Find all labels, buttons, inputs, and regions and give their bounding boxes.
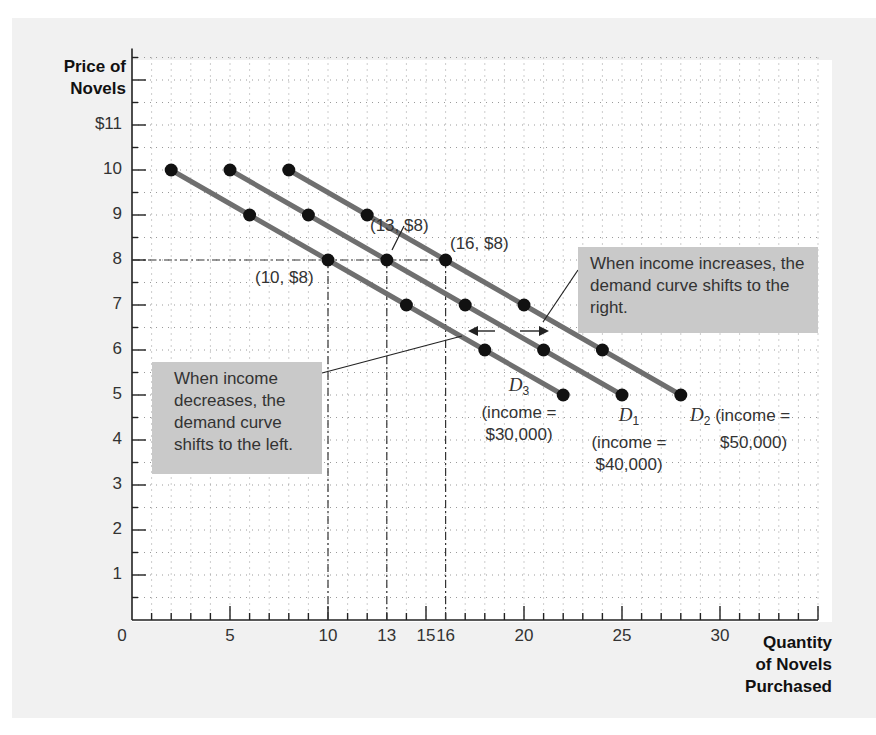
y-axis-title-line1: Price of	[40, 56, 126, 78]
point-label-16-8: (16, $8)	[450, 234, 509, 254]
y-tick-label: 1	[60, 564, 122, 584]
d2-subscript: 2	[704, 414, 711, 428]
y-tick-label: 4	[60, 429, 122, 449]
d3-subscript: 3	[523, 384, 530, 398]
x-axis-title: Quantity of Novels Purchased	[720, 632, 832, 698]
y-tick-label: 8	[60, 249, 122, 269]
x-axis-title-line2: of Novels	[720, 654, 832, 676]
d1-subscript: 1	[633, 414, 640, 428]
grid-lines	[132, 58, 818, 621]
arrow-left-icon	[468, 326, 478, 336]
d3-income-line2: $30,000)	[474, 424, 564, 446]
x-tick-label: 10	[308, 626, 348, 646]
d2-income-line1: (income =	[715, 406, 790, 425]
y-tick-label: 7	[60, 294, 122, 314]
data-point	[282, 164, 295, 177]
curve-label-d1: D1 (income = $40,000)	[584, 404, 674, 476]
y-tick-label: 3	[60, 474, 122, 494]
x-tick-label: 13	[367, 626, 407, 646]
data-point	[400, 299, 413, 312]
data-point	[439, 254, 452, 267]
point-label-10-8: (10, $8)	[255, 268, 314, 288]
d3-name: D	[509, 374, 523, 395]
y-tick-label: 6	[60, 339, 122, 359]
data-point	[459, 299, 472, 312]
x-axis-title-line1: Quantity	[720, 632, 832, 654]
x-tick-label: 16	[426, 626, 466, 646]
curve-label-d3: D3 (income = $30,000)	[474, 374, 564, 446]
d1-income-line2: $40,000)	[584, 454, 674, 476]
data-point	[224, 164, 237, 177]
y-tick-label: 9	[60, 204, 122, 224]
data-point	[165, 164, 178, 177]
data-point	[380, 254, 393, 267]
data-point	[616, 389, 629, 402]
x-tick-label: 20	[504, 626, 544, 646]
data-point	[322, 254, 335, 267]
data-point	[302, 209, 315, 222]
data-point	[478, 344, 491, 357]
d2-income-line2: $50,000)	[690, 432, 820, 454]
chart-canvas	[0, 0, 876, 735]
point-label-13-8: (13, $8)	[370, 216, 429, 236]
leader-decrease-note	[322, 336, 462, 373]
data-point	[243, 209, 256, 222]
y-tick-label: 2	[60, 519, 122, 539]
d1-name: D	[619, 404, 633, 425]
x-tick-label: 0	[102, 626, 142, 646]
y-tick-label: $11	[60, 114, 122, 134]
d2-name: D	[690, 404, 704, 425]
x-tick-label: 25	[602, 626, 642, 646]
data-point	[518, 299, 531, 312]
note-income-decrease: When income decreases, the demand curve …	[152, 362, 322, 474]
y-tick-label: 5	[60, 384, 122, 404]
x-axis-title-line3: Purchased	[720, 676, 832, 698]
data-point	[596, 344, 609, 357]
curve-label-d2: D2 (income = $50,000)	[690, 404, 820, 454]
x-tick-label: 5	[210, 626, 250, 646]
note-income-increase: When income increases, the demand curve …	[578, 247, 818, 333]
y-tick-label: 10	[60, 159, 122, 179]
y-axis-title-line2: Novels	[40, 78, 126, 100]
y-axis-title: Price of Novels	[40, 56, 126, 100]
data-point	[537, 344, 550, 357]
leader-increase-note	[543, 270, 578, 322]
data-point	[674, 389, 687, 402]
d3-income-line1: (income =	[474, 402, 564, 424]
d1-income-line1: (income =	[584, 432, 674, 454]
